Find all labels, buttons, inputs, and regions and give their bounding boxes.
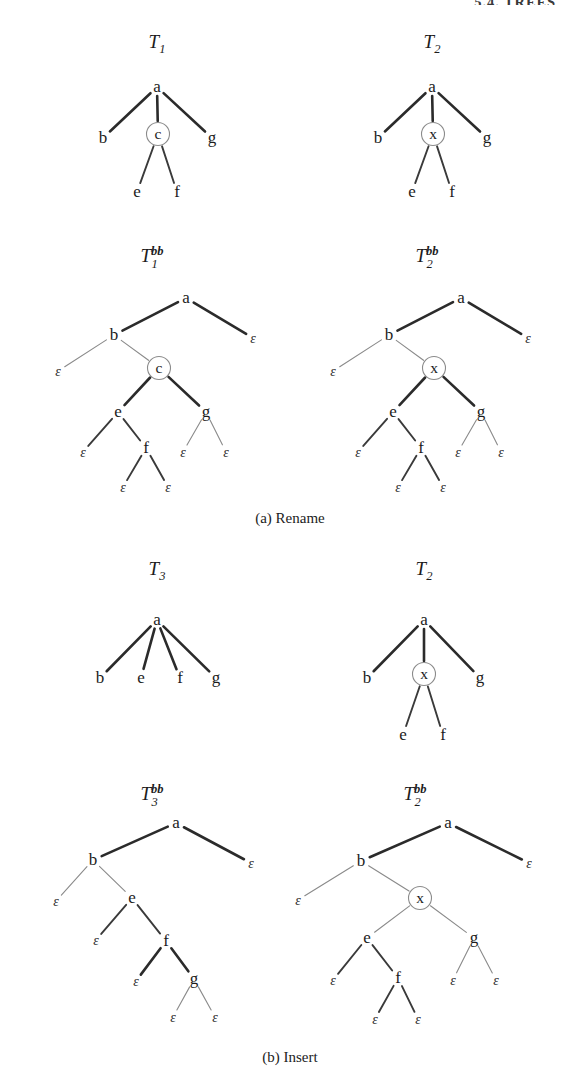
tree-edge-b-eps2 <box>61 867 87 895</box>
tree-node-label-f: f <box>395 968 401 987</box>
tree-edge-a-f <box>160 628 176 669</box>
tree-t1bb-edges <box>65 302 246 480</box>
caption-b: (b) Insert <box>262 1049 318 1066</box>
tree-node-label-g: g <box>477 402 486 421</box>
tree-node-label-e: e <box>399 725 407 744</box>
tree-edge-f-g <box>171 948 188 971</box>
caption-a: (a) Rename <box>255 510 325 527</box>
tree-t2bb-bottom-edges <box>305 827 522 1012</box>
tree-node-label-eps5: ε <box>498 445 504 460</box>
tree-edge-a-eps1 <box>184 827 244 859</box>
tree-edge-e-f <box>124 419 141 440</box>
tree-edge-b-eps2 <box>340 340 382 367</box>
tree-node-label-g: g <box>212 668 221 687</box>
tree-t2-top: abxgefT2 <box>374 31 492 201</box>
tree-node-label-eps7: ε <box>440 480 446 495</box>
tree-node-label-eps4: ε <box>455 445 461 460</box>
tree-edge-a-b <box>102 827 168 856</box>
tree-edge-e-eps3 <box>363 419 387 446</box>
tree-node-label-e: e <box>408 182 416 201</box>
tree-node-label-eps2: ε <box>330 364 336 379</box>
tree-node-label-f: f <box>174 182 180 201</box>
tree-node-label-a: a <box>428 77 436 96</box>
tree-edge-f-eps4 <box>141 948 161 974</box>
tree-t2bb-bottom-title: Tbb2 <box>403 782 426 809</box>
tree-edge-x-f <box>428 686 440 726</box>
tree-node-label-e: e <box>389 402 397 421</box>
tree-edge-g-eps5 <box>210 420 222 445</box>
tree-node-label-a: a <box>444 813 452 832</box>
tree-edge-x-e <box>399 378 425 406</box>
tree-t3-edges <box>107 626 210 671</box>
tree-node-label-eps6: ε <box>120 480 126 495</box>
tree-edge-c-f <box>162 146 174 183</box>
tree-edge-g-eps4 <box>187 420 202 445</box>
tree-edge-a-e <box>144 629 155 669</box>
tree-node-label-eps6: ε <box>395 480 401 495</box>
tree-edge-a-g <box>439 93 480 131</box>
figure-root: 5.4. TREES abcgefT1abxgefT2abεεcegεfεεεε… <box>0 0 580 1078</box>
tree-edge-a-b <box>374 626 418 671</box>
tree-node-label-eps2: ε <box>55 364 61 379</box>
tree-node-label-eps5: ε <box>493 973 499 988</box>
tree-node-label-eps7: ε <box>165 480 171 495</box>
tree-edge-e-f <box>399 419 416 440</box>
tree-node-label-c: c <box>156 359 163 376</box>
tree-t2-top-title: T2 <box>424 31 441 56</box>
tree-edge-f-eps6 <box>127 456 141 480</box>
tree-edge-e-eps3 <box>88 419 112 446</box>
tree-node-label-a: a <box>172 813 180 832</box>
tree-node-label-b: b <box>385 325 394 344</box>
tree-edge-f-eps7 <box>402 986 415 1012</box>
tree-edge-e-eps3 <box>101 905 126 934</box>
tree-edge-f-eps7 <box>150 456 164 480</box>
tree-node-label-f: f <box>418 438 424 457</box>
tree-node-label-g: g <box>483 128 492 147</box>
tree-edge-a-b <box>397 302 453 331</box>
tree-node-label-g: g <box>208 128 217 147</box>
tree-node-label-f: f <box>143 438 149 457</box>
tree-node-label-eps3: ε <box>330 973 336 988</box>
tree-edge-e-eps3 <box>338 945 361 974</box>
tree-node-label-e: e <box>133 182 141 201</box>
tree-node-label-g: g <box>190 969 199 988</box>
tree-node-label-g: g <box>202 402 211 421</box>
tree-edge-a-b <box>370 827 440 858</box>
tree-edge-b-eps2 <box>65 340 107 367</box>
tree-node-label-x: x <box>429 125 437 142</box>
tree-edge-b-e <box>99 866 125 891</box>
tree-t2bb-top-edges <box>340 302 521 480</box>
tree-node-label-eps2: ε <box>53 894 59 909</box>
tree-node-label-f: f <box>177 668 183 687</box>
tree-node-label-eps4: ε <box>133 974 139 989</box>
tree-edge-f-eps6 <box>379 986 394 1012</box>
tree-node-label-e: e <box>128 888 136 907</box>
tree-node-label-a: a <box>182 288 190 307</box>
tree-node-label-x: x <box>420 665 428 682</box>
tree-node-label-a: a <box>153 610 161 629</box>
tree-node-label-eps6: ε <box>212 1010 218 1025</box>
tree-edge-g-eps4 <box>457 946 470 973</box>
tree-edge-x-e <box>406 686 420 726</box>
tree-edge-f-eps7 <box>425 456 439 480</box>
tree-node-label-eps3: ε <box>80 445 86 460</box>
tree-edge-g-eps4 <box>462 420 477 445</box>
tree-node-label-b: b <box>99 128 108 147</box>
tree-node-label-f: f <box>163 931 169 950</box>
tree-node-label-eps7: ε <box>415 1012 421 1027</box>
tree-node-label-eps4: ε <box>180 445 186 460</box>
tree-t2bb-top: abεεxegεfεεεεTbb2 <box>330 244 531 495</box>
tree-t1: abcgefT1 <box>99 31 217 201</box>
tree-node-label-x: x <box>416 889 424 906</box>
tree-t2bb-bottom: abεεxegεfεεεεTbb2 <box>295 782 532 1027</box>
tree-node-label-a: a <box>153 77 161 96</box>
tree-node-label-a: a <box>420 610 428 629</box>
tree-node-label-f: f <box>440 725 446 744</box>
tree-figure-canvas: abcgefT1abxgefT2abεεcegεfεεεεTbb1abεεxeg… <box>0 0 580 1078</box>
tree-node-label-eps5: ε <box>223 445 229 460</box>
tree-node-label-x: x <box>430 359 438 376</box>
tree-node-label-eps4: ε <box>450 973 456 988</box>
tree-t1bb: abεεcegεfεεεεTbb1 <box>55 244 256 495</box>
tree-node-label-eps5: ε <box>170 1010 176 1025</box>
tree-edge-f-eps6 <box>402 456 416 480</box>
